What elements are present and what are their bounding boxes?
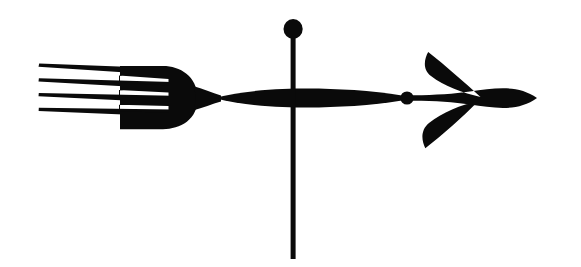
pin-finial-ball [284,19,303,39]
vertical-pin [291,36,296,259]
weathervane-illustration: Fork-and-arrow weathervane silhouette [0,0,581,267]
shaft-bead [400,91,413,104]
artboard: Fork-and-arrow weathervane silhouette [0,0,581,267]
background-rect [0,0,581,267]
